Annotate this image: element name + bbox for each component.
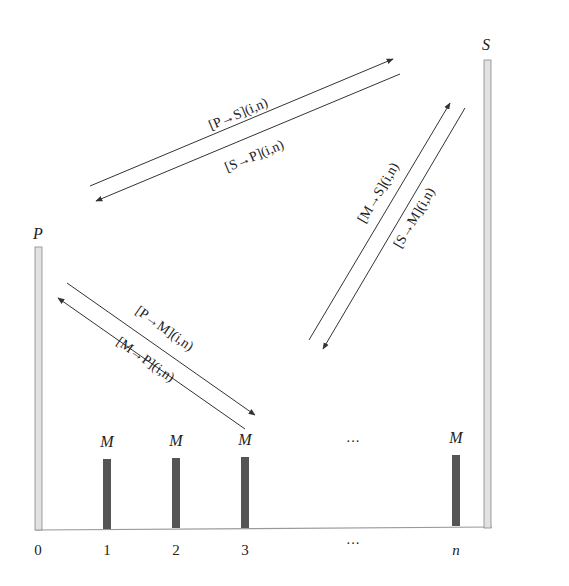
m-node-3: M xyxy=(237,431,253,528)
m-node-1: M xyxy=(99,433,115,529)
m-label: M xyxy=(237,431,253,448)
arrow-s-to-p xyxy=(96,74,400,201)
m-bar xyxy=(452,455,460,526)
m-node-2: M xyxy=(168,432,184,528)
message-flow-diagram: P S M M M ··· M 0 1 2 3 ··· n [P→S](i,n)… xyxy=(0,0,569,586)
tick-0: 0 xyxy=(34,542,42,558)
m-label: M xyxy=(99,433,115,450)
s-pillar xyxy=(484,60,491,528)
m-ellipsis: ··· xyxy=(346,434,360,449)
m-bar xyxy=(241,457,249,528)
arrow-m-to-s xyxy=(309,103,450,340)
arrow-p-to-m xyxy=(67,283,255,415)
label-s-to-p: [S→P](i,n) xyxy=(222,137,286,176)
tick-1: 1 xyxy=(103,542,111,558)
label-s-to-m: [S→M](i,n) xyxy=(391,185,439,251)
tick-3: 3 xyxy=(241,542,249,558)
m-bar xyxy=(103,459,111,529)
m-label: M xyxy=(168,432,184,449)
edge-s-to-m: [S→M](i,n) xyxy=(323,108,465,349)
p-label: P xyxy=(32,225,43,242)
m-bar xyxy=(172,458,180,528)
m-label: M xyxy=(448,429,464,446)
arrow-s-to-m xyxy=(323,108,465,349)
tick-n: n xyxy=(452,542,460,558)
axis-ticks: 0 1 2 3 ··· n xyxy=(34,536,460,558)
edge-p-to-m: [P→M](i,n) xyxy=(67,283,255,415)
tick-2: 2 xyxy=(172,542,180,558)
m-node-n: M xyxy=(448,429,464,526)
edge-s-to-p: [S→P](i,n) xyxy=(96,74,400,201)
tick-ellipsis: ··· xyxy=(346,536,360,551)
edge-m-to-s: [M→S](i,n) xyxy=(309,103,450,340)
s-label: S xyxy=(482,36,490,53)
p-pillar xyxy=(35,247,42,530)
label-m-to-s: [M→S](i,n) xyxy=(355,160,403,226)
label-m-to-p: [M→P](i,n) xyxy=(113,334,178,386)
